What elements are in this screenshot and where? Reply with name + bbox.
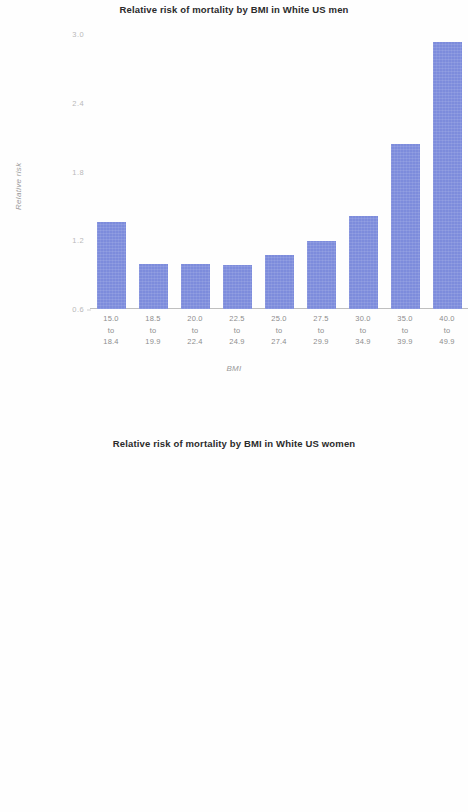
chart-figure-women: Relative risk of mortality by BMI in Whi… [0, 400, 468, 812]
bar [181, 264, 210, 309]
x-tick-label: 30.0to34.9 [342, 313, 384, 348]
bar-slot [216, 34, 258, 309]
bar [391, 144, 420, 309]
x-tick-line: 35.0 [384, 313, 426, 325]
x-axis-label-men: BMI [0, 364, 468, 373]
bar-group-men [90, 34, 468, 309]
y-axis-label-men: Relative risk [14, 163, 23, 210]
x-tick-line: 34.9 [342, 336, 384, 348]
x-tick-line: 22.5 [216, 313, 258, 325]
chart-title-women: Relative risk of mortality by BMI in Whi… [0, 438, 468, 449]
y-tick-label: 1.8 [72, 167, 84, 176]
plot-area-men: 3.02.41.81.20.6 [90, 34, 468, 309]
x-tick-line: to [300, 325, 342, 337]
bar [349, 216, 378, 309]
x-tick-label: 20.0to22.4 [174, 313, 216, 348]
x-tick-line: to [132, 325, 174, 337]
x-tick-line: 27.4 [258, 336, 300, 348]
x-tick-line: to [258, 325, 300, 337]
x-tick-label: 40.0to49.9 [426, 313, 468, 348]
x-tick-line: 19.9 [132, 336, 174, 348]
x-tick-line: 25.0 [258, 313, 300, 325]
x-axis-ticks-men: 15.0to18.418.5to19.920.0to22.422.5to24.9… [90, 313, 468, 348]
y-tick-label: 2.4 [72, 98, 84, 107]
x-tick-line: 18.4 [90, 336, 132, 348]
bar-slot [132, 34, 174, 309]
x-tick-line: 39.9 [384, 336, 426, 348]
chart-figure-men: Relative risk of mortality by BMI in Whi… [0, 0, 468, 400]
x-tick-label: 18.5to19.9 [132, 313, 174, 348]
x-tick-line: to [384, 325, 426, 337]
bar-slot [384, 34, 426, 309]
x-tick-label: 15.0to18.4 [90, 313, 132, 348]
x-tick-line: 30.0 [342, 313, 384, 325]
x-tick-line: 49.9 [426, 336, 468, 348]
bar-slot [342, 34, 384, 309]
x-tick-line: to [90, 325, 132, 337]
x-tick-label: 35.0to39.9 [384, 313, 426, 348]
bar [223, 265, 252, 309]
x-tick-line: to [342, 325, 384, 337]
x-tick-line: 18.5 [132, 313, 174, 325]
x-tick-line: to [216, 325, 258, 337]
bar [265, 255, 294, 309]
bar-slot [174, 34, 216, 309]
y-tick-mark [87, 309, 91, 310]
bar [97, 222, 126, 309]
x-tick-line: 20.0 [174, 313, 216, 325]
bar [433, 42, 462, 309]
x-tick-line: 29.9 [300, 336, 342, 348]
x-tick-label: 25.0to27.4 [258, 313, 300, 348]
chart-title-men: Relative risk of mortality by BMI in Whi… [0, 4, 468, 15]
bar-slot [258, 34, 300, 309]
y-tick-label: 3.0 [72, 30, 84, 39]
x-tick-line: to [426, 325, 468, 337]
y-tick-label: 1.2 [72, 236, 84, 245]
x-tick-line: 22.4 [174, 336, 216, 348]
x-tick-label: 27.5to29.9 [300, 313, 342, 348]
bar [307, 241, 336, 309]
x-tick-line: 24.9 [216, 336, 258, 348]
x-tick-label: 22.5to24.9 [216, 313, 258, 348]
y-tick-label: 0.6 [72, 305, 84, 314]
x-tick-line: to [174, 325, 216, 337]
bar-slot [426, 34, 468, 309]
x-tick-line: 27.5 [300, 313, 342, 325]
x-tick-line: 15.0 [90, 313, 132, 325]
bar-slot [90, 34, 132, 309]
bar [139, 264, 168, 309]
bar-slot [300, 34, 342, 309]
x-tick-line: 40.0 [426, 313, 468, 325]
